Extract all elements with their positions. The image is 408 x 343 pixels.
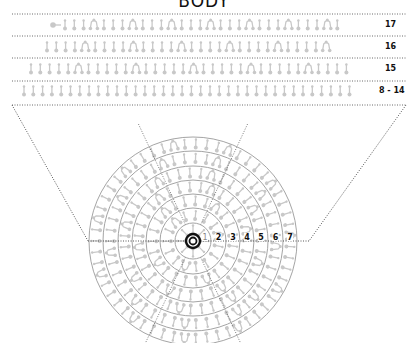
stick-glyph-icon bbox=[87, 85, 91, 96]
branch-glyph-icon bbox=[303, 63, 314, 75]
stick-glyph-icon bbox=[149, 308, 158, 320]
stick-glyph-icon bbox=[120, 305, 131, 316]
stick-glyph-icon bbox=[171, 315, 177, 327]
stick-glyph-icon bbox=[78, 85, 82, 96]
stick-glyph-icon bbox=[54, 41, 58, 52]
stick-glyph-icon bbox=[265, 264, 277, 271]
stick-glyph-icon bbox=[136, 191, 147, 201]
ring-label-1: 1 bbox=[202, 233, 207, 242]
stick-glyph-icon bbox=[214, 141, 221, 153]
stick-glyph-icon bbox=[198, 168, 203, 180]
stick-glyph-icon bbox=[187, 181, 192, 192]
stick-glyph-icon bbox=[338, 85, 342, 96]
stick-glyph-icon bbox=[172, 63, 176, 74]
stick-glyph-icon bbox=[96, 85, 100, 96]
row-label-15: 15 bbox=[385, 64, 396, 73]
glyph-row-0 bbox=[50, 19, 339, 31]
stick-glyph-icon bbox=[121, 41, 125, 52]
stick-glyph-icon bbox=[264, 85, 268, 96]
stick-glyph-icon bbox=[278, 63, 282, 74]
stick-glyph-icon bbox=[135, 222, 147, 229]
stick-glyph-icon bbox=[148, 227, 160, 234]
stick-glyph-icon bbox=[139, 302, 149, 313]
stick-glyph-icon bbox=[181, 63, 185, 74]
branch-glyph-icon bbox=[114, 191, 130, 206]
stick-glyph-icon bbox=[267, 19, 271, 30]
stick-glyph-icon bbox=[335, 63, 339, 74]
stick-glyph-icon bbox=[38, 63, 42, 74]
stick-glyph-icon bbox=[292, 85, 296, 96]
branch-glyph-icon bbox=[89, 19, 100, 31]
branch-glyph-icon bbox=[91, 212, 105, 225]
stick-glyph-icon bbox=[208, 251, 219, 261]
stick-glyph-icon bbox=[129, 200, 141, 209]
stick-glyph-icon bbox=[106, 85, 110, 96]
stick-glyph-icon bbox=[283, 255, 295, 261]
stick-glyph-icon bbox=[160, 41, 164, 52]
stick-glyph-icon bbox=[116, 279, 128, 288]
stick-glyph-icon bbox=[326, 63, 330, 74]
stick-glyph-icon bbox=[159, 327, 166, 339]
stick-glyph-icon bbox=[296, 63, 300, 74]
branch-glyph-icon bbox=[132, 241, 145, 253]
diagram-canvas: 1234567 bbox=[0, 0, 408, 343]
stick-glyph-icon bbox=[103, 41, 107, 52]
stick-glyph-icon bbox=[138, 152, 147, 164]
stick-glyph-icon bbox=[272, 189, 284, 198]
stick-glyph-icon bbox=[102, 19, 106, 30]
stick-glyph-icon bbox=[138, 318, 147, 330]
stick-glyph-icon bbox=[105, 227, 117, 232]
stick-glyph-icon bbox=[107, 216, 119, 223]
stick-glyph-icon bbox=[193, 195, 198, 206]
stick-glyph-icon bbox=[45, 41, 49, 52]
stick-glyph-icon bbox=[155, 294, 164, 306]
stick-glyph-icon bbox=[227, 85, 231, 96]
stick-glyph-icon bbox=[139, 169, 149, 180]
stick-glyph-icon bbox=[259, 63, 263, 74]
stick-glyph-icon bbox=[214, 314, 221, 326]
stick-glyph-icon bbox=[150, 19, 154, 30]
branch-glyph-icon bbox=[179, 332, 191, 343]
stick-glyph-icon bbox=[242, 277, 253, 287]
stick-glyph-icon bbox=[124, 211, 136, 219]
stick-glyph-icon bbox=[87, 63, 91, 74]
stick-glyph-icon bbox=[199, 289, 205, 301]
stick-glyph-icon bbox=[240, 248, 252, 254]
stick-glyph-icon bbox=[273, 85, 277, 96]
stick-glyph-icon bbox=[224, 326, 232, 338]
stick-glyph-icon bbox=[249, 180, 260, 190]
stick-glyph-icon bbox=[169, 41, 173, 52]
row-label-16: 16 bbox=[385, 42, 396, 51]
stick-glyph-icon bbox=[140, 263, 152, 272]
stick-glyph-icon bbox=[122, 185, 133, 195]
branch-glyph-icon bbox=[80, 41, 91, 53]
stick-glyph-icon bbox=[208, 85, 212, 96]
stick-glyph-icon bbox=[182, 153, 187, 165]
stick-glyph-icon bbox=[180, 85, 184, 96]
stick-glyph-icon bbox=[295, 41, 299, 52]
stick-glyph-icon bbox=[119, 244, 131, 249]
stick-glyph-icon bbox=[164, 187, 173, 199]
branch-glyph-icon bbox=[283, 19, 294, 31]
stick-glyph-icon bbox=[344, 63, 348, 74]
stick-glyph-icon bbox=[176, 183, 183, 195]
stick-glyph-icon bbox=[225, 196, 236, 207]
stick-glyph-icon bbox=[335, 19, 339, 30]
stick-glyph-icon bbox=[145, 183, 155, 194]
branch-glyph-icon bbox=[270, 241, 282, 252]
stick-glyph-icon bbox=[194, 332, 198, 343]
stick-glyph-icon bbox=[276, 275, 288, 283]
stick-glyph-icon bbox=[50, 85, 54, 96]
branch-glyph-icon bbox=[131, 63, 142, 75]
stick-glyph-icon bbox=[181, 211, 188, 223]
stick-glyph-icon bbox=[164, 227, 176, 235]
stick-glyph-icon bbox=[239, 63, 243, 74]
stick-glyph-icon bbox=[259, 170, 270, 181]
stick-glyph-icon bbox=[125, 264, 137, 272]
stick-glyph-icon bbox=[112, 174, 123, 184]
stick-glyph-icon bbox=[137, 281, 148, 291]
stick-glyph-icon bbox=[204, 317, 210, 329]
stick-glyph-icon bbox=[243, 315, 253, 327]
stick-glyph-icon bbox=[314, 41, 318, 52]
stick-glyph-icon bbox=[254, 249, 266, 255]
